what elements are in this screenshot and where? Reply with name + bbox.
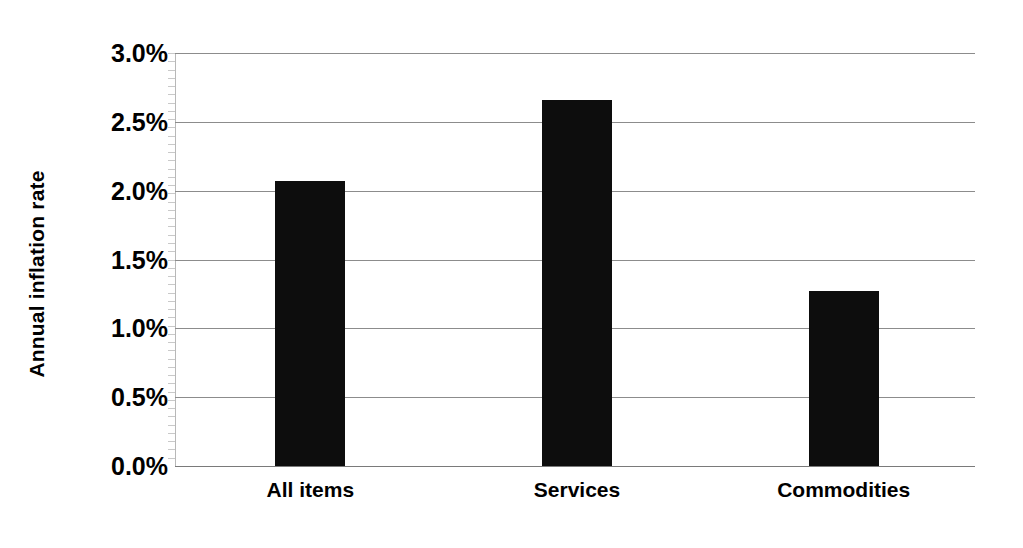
y-axis-tick-label: 2.5% [82, 107, 168, 136]
bar-chart: Annual inflation rate 0.0%0.5%1.0%1.5%2.… [0, 0, 1023, 548]
x-axis-tick-label: All items [267, 478, 355, 502]
bar-series [175, 53, 975, 466]
axis-baseline [175, 466, 975, 467]
bar [809, 291, 879, 466]
y-axis-tick-label: 3.0% [82, 39, 168, 68]
plot-area [175, 53, 975, 466]
y-axis-minor-ticks [168, 53, 175, 466]
y-axis-tick-label: 1.0% [82, 314, 168, 343]
x-axis-tick-label: Commodities [777, 478, 910, 502]
y-axis-tick-label: 0.5% [82, 383, 168, 412]
y-axis-tick-label: 2.0% [82, 176, 168, 205]
y-axis-tick-label: 0.0% [82, 452, 168, 481]
y-axis-tick-label: 1.5% [82, 245, 168, 274]
bar [275, 181, 345, 466]
x-axis-tick-label: Services [534, 478, 620, 502]
y-axis-title: Annual inflation rate [0, 0, 92, 548]
y-axis-tick-labels: 0.0%0.5%1.0%1.5%2.0%2.5%3.0% [80, 0, 168, 548]
x-axis-tick-labels: All itemsServicesCommodities [175, 478, 975, 518]
bar [542, 100, 612, 466]
